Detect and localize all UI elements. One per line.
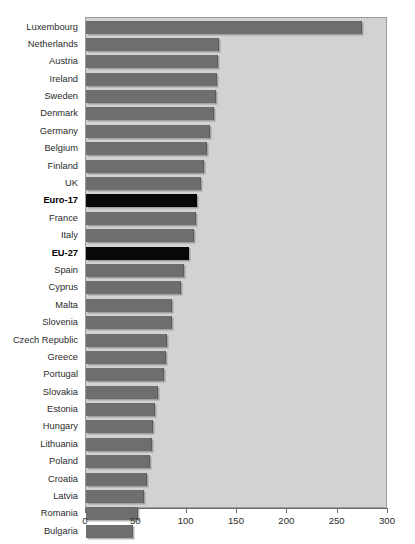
bar-row: Portugal xyxy=(0,366,415,383)
bar xyxy=(86,473,147,486)
bar-category-label: Portugal xyxy=(43,366,78,383)
bar-category-label: Greece xyxy=(48,349,79,366)
bar xyxy=(86,351,166,364)
bar-category-label: Poland xyxy=(49,453,78,470)
x-axis-tick xyxy=(186,508,187,513)
bar-category-label: Czech Republic xyxy=(13,332,78,349)
bar xyxy=(86,160,204,173)
x-axis-tick xyxy=(337,508,338,513)
x-axis-tick-label: 200 xyxy=(278,515,294,526)
bar xyxy=(86,73,217,86)
bar-category-label: Netherlands xyxy=(28,36,78,53)
bar xyxy=(86,334,167,347)
bar-row: Netherlands xyxy=(0,36,415,53)
bar-category-label: Austria xyxy=(49,53,78,70)
x-axis-tick xyxy=(85,508,86,513)
bar-category-label: Cyprus xyxy=(49,279,78,296)
bar-category-label: Latvia xyxy=(53,488,78,505)
bar xyxy=(86,420,153,433)
bar xyxy=(86,21,362,34)
bar-category-label: Italy xyxy=(61,227,78,244)
x-axis-tick xyxy=(387,508,388,513)
bar xyxy=(86,212,196,225)
bar-category-label: Slovakia xyxy=(43,384,78,401)
bar xyxy=(86,386,158,399)
bar-row: Ireland xyxy=(0,71,415,88)
x-axis-tick xyxy=(286,508,287,513)
bar-row: EU-27 xyxy=(0,245,415,262)
bar xyxy=(86,299,172,312)
bar-row: Sweden xyxy=(0,88,415,105)
x-axis-tick-label: 150 xyxy=(228,515,244,526)
bar xyxy=(86,107,214,120)
bar-category-label: Euro-17 xyxy=(43,192,78,209)
bar xyxy=(86,247,189,260)
bar xyxy=(86,403,155,416)
bar-category-label: Malta xyxy=(55,297,78,314)
x-axis-tick xyxy=(236,508,237,513)
bar-category-label: Belgium xyxy=(44,140,78,157)
bar-row: Lithuania xyxy=(0,436,415,453)
bar-row: Austria xyxy=(0,53,415,70)
bar-row: Czech Republic xyxy=(0,332,415,349)
bar xyxy=(86,177,201,190)
bar-category-label: UK xyxy=(65,175,78,192)
bar xyxy=(86,525,133,538)
bar-category-label: Luxembourg xyxy=(26,19,78,36)
bar xyxy=(86,90,216,103)
x-axis-tick-label: 0 xyxy=(82,515,87,526)
bar-row: Malta xyxy=(0,297,415,314)
bar xyxy=(86,194,197,207)
bar-category-label: Finland xyxy=(48,158,79,175)
bar-category-label: France xyxy=(49,210,78,227)
bar-row: Luxembourg xyxy=(0,19,415,36)
bar xyxy=(86,142,207,155)
bar-category-label: Romania xyxy=(41,505,78,522)
x-axis-tick-label: 50 xyxy=(130,515,141,526)
bar-row: Germany xyxy=(0,123,415,140)
bar-category-label: Denmark xyxy=(40,105,78,122)
bar xyxy=(86,368,164,381)
bar-row: Poland xyxy=(0,453,415,470)
bar xyxy=(86,281,181,294)
bar-row: Belgium xyxy=(0,140,415,157)
bar-row: Denmark xyxy=(0,105,415,122)
x-axis-tick-label: 100 xyxy=(178,515,194,526)
bar xyxy=(86,264,184,277)
bar-row: France xyxy=(0,210,415,227)
bar-row: UK xyxy=(0,175,415,192)
bar xyxy=(86,229,194,242)
bar-category-label: Croatia xyxy=(48,471,78,488)
bar xyxy=(86,316,172,329)
bar-row: Estonia xyxy=(0,401,415,418)
bar-rows: LuxembourgNetherlandsAustriaIrelandSwede… xyxy=(0,19,415,541)
x-axis-tick-label: 250 xyxy=(329,515,345,526)
bar-category-label: Estonia xyxy=(47,401,78,418)
bar-category-label: Ireland xyxy=(50,71,78,88)
bar-category-label: Sweden xyxy=(44,88,78,105)
x-axis-tick-label: 300 xyxy=(379,515,395,526)
bar-row: Italy xyxy=(0,227,415,244)
bar-category-label: Spain xyxy=(54,262,78,279)
x-axis-tick xyxy=(135,508,136,513)
bar xyxy=(86,490,144,503)
bar-row: Greece xyxy=(0,349,415,366)
bar-row: Cyprus xyxy=(0,279,415,296)
bar-row: Bulgaria xyxy=(0,523,415,540)
bar-row: Croatia xyxy=(0,471,415,488)
bar xyxy=(86,125,210,138)
bar-row: Slovakia xyxy=(0,384,415,401)
bar-row: Hungary xyxy=(0,418,415,435)
bar-category-label: Lithuania xyxy=(40,436,78,453)
bar-row: Euro-17 xyxy=(0,192,415,209)
bar-category-label: Bulgaria xyxy=(44,523,78,540)
bar xyxy=(86,455,150,468)
bar xyxy=(86,38,219,51)
bar-category-label: Slovenia xyxy=(42,314,78,331)
bar-row: Spain xyxy=(0,262,415,279)
bar xyxy=(86,55,218,68)
bar xyxy=(86,438,152,451)
bar-category-label: Hungary xyxy=(43,418,78,435)
bar-row: Slovenia xyxy=(0,314,415,331)
bar-category-label: Germany xyxy=(40,123,78,140)
